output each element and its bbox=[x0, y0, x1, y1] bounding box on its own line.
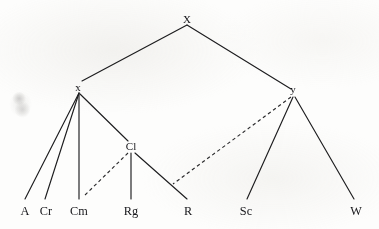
edge-x-Cl bbox=[80, 94, 128, 141]
edge-X-x bbox=[82, 25, 187, 81]
node-label-A: A bbox=[21, 204, 30, 218]
edge-Cl-R bbox=[135, 153, 187, 199]
node-label-R: R bbox=[184, 204, 193, 218]
tree-diagram-canvas: X x y Cl A Cr Cm Rg R Sc W bbox=[0, 0, 379, 229]
edge-X-y bbox=[187, 25, 291, 89]
edge-x-A bbox=[25, 93, 79, 199]
node-label-Cl: Cl bbox=[126, 140, 136, 152]
tree-diagram-svg: X x y Cl A Cr Cm Rg R Sc W bbox=[0, 0, 379, 229]
node-label-Sc: Sc bbox=[240, 204, 253, 218]
node-label-x: x bbox=[75, 81, 81, 93]
node-label-Cr: Cr bbox=[40, 204, 52, 218]
node-label-X: X bbox=[183, 13, 191, 25]
node-label-W: W bbox=[350, 204, 362, 218]
edge-x-Cr bbox=[45, 93, 79, 199]
edge-group bbox=[25, 25, 354, 199]
node-label-Rg: Rg bbox=[124, 204, 138, 218]
node-label-Cm: Cm bbox=[70, 204, 88, 218]
node-label-y: y bbox=[290, 83, 296, 95]
edge-y-W bbox=[295, 97, 354, 199]
edge-Cl-Cm bbox=[83, 153, 128, 197]
